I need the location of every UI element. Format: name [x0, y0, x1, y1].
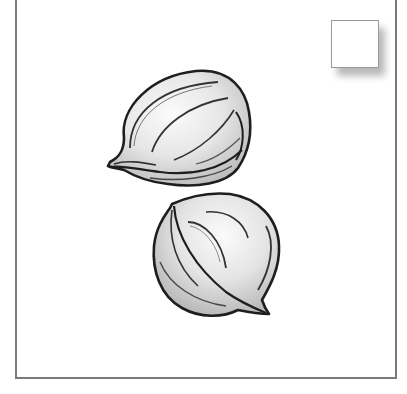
seed-lower-icon [154, 193, 279, 315]
seed-illustration [0, 0, 407, 394]
seed-upper-icon [108, 71, 250, 186]
